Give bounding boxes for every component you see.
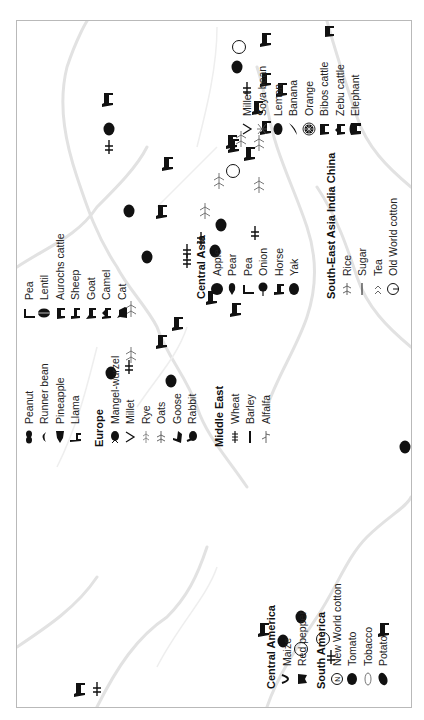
wheat-icon bbox=[228, 427, 242, 447]
svg-text:N: N bbox=[334, 677, 341, 682]
legend-label: Wheat bbox=[229, 394, 241, 424]
ass-icon bbox=[257, 30, 273, 48]
legend-item: Onion bbox=[256, 235, 272, 299]
map-frame: Central America Maize Red pepper South A… bbox=[16, 20, 412, 708]
legend-item: Pea bbox=[240, 235, 256, 299]
legend-item: Goose bbox=[169, 356, 185, 447]
old-world-cotton-icon bbox=[225, 162, 241, 180]
legend-label: Aurochs cattle bbox=[54, 233, 66, 300]
elephant-icon bbox=[348, 119, 362, 139]
old-world-cotton-icon bbox=[386, 279, 400, 299]
tomato-icon bbox=[345, 669, 359, 689]
goose-icon bbox=[170, 427, 184, 447]
legend-label: Rice bbox=[341, 255, 353, 276]
legend-item: Potato bbox=[376, 583, 392, 689]
legend-item: Old World cotton bbox=[386, 153, 402, 299]
lemon-icon bbox=[271, 119, 285, 139]
legend-label: Soya bean bbox=[256, 66, 268, 116]
legend-label: Zebu cattle bbox=[334, 64, 346, 116]
legend-label: Goose bbox=[171, 393, 183, 424]
legend-label: Barley bbox=[244, 394, 256, 424]
legend-item: Pear bbox=[225, 235, 241, 299]
legend-item: Barley bbox=[243, 386, 259, 447]
legend-label: Tomato bbox=[346, 632, 358, 666]
mangel-wurzel-icon bbox=[108, 427, 122, 447]
legend-item: Pineapple bbox=[52, 363, 68, 447]
soya-bean-icon bbox=[255, 119, 269, 139]
legend-south-america: South America N New World cotton Tomato … bbox=[313, 583, 391, 689]
legend-label: Peanut bbox=[23, 391, 35, 424]
water-buffalo-icon bbox=[322, 21, 336, 41]
legend-item: Water buffalo bbox=[321, 20, 337, 41]
legend-title: South-East Asia India China bbox=[323, 153, 339, 299]
legend-south-east-asia: South-East Asia India China Rice Sugar T… bbox=[323, 153, 401, 299]
legend-item: Wheat bbox=[227, 386, 243, 447]
legend-item: Rabbit bbox=[185, 356, 201, 447]
legend-item: Soya bean bbox=[255, 62, 271, 139]
legend-title: South America bbox=[313, 583, 329, 689]
legend-item: Alfalfa bbox=[258, 386, 274, 447]
orange-icon bbox=[302, 119, 316, 139]
legend-item: Peanut bbox=[21, 363, 37, 447]
legend-label: Alfalfa bbox=[260, 395, 272, 424]
legend-item: Tobacco bbox=[360, 583, 376, 689]
legend-item: Sheep bbox=[68, 233, 84, 323]
legend-label: Yak bbox=[288, 259, 300, 276]
legend-label: Red pepper bbox=[296, 611, 308, 666]
peanut-icon bbox=[22, 427, 36, 447]
maize-icon bbox=[89, 680, 105, 698]
legend-item: Lentil bbox=[37, 233, 53, 323]
pea-icon bbox=[101, 138, 117, 156]
alfalfa-icon bbox=[259, 427, 273, 447]
sugar-icon bbox=[355, 279, 369, 299]
aurochs-cattle-icon bbox=[53, 303, 67, 323]
legend-europe: Europe Mangel-wurzel Millet Rye Oats Goo… bbox=[91, 356, 200, 447]
legend-label: Lentil bbox=[38, 275, 50, 300]
legend-item: Zebu cattle bbox=[332, 62, 348, 139]
legend-asia-extra-2: Water buffalo bbox=[321, 20, 337, 41]
soya-bean-icon bbox=[251, 176, 267, 194]
pineapple-icon bbox=[397, 438, 412, 456]
figure-stage: Central America Maize Red pepper South A… bbox=[0, 0, 424, 720]
pear-icon bbox=[121, 202, 137, 220]
aurochs-cattle-icon bbox=[169, 314, 185, 332]
legend-middle-east-extra: Pea Lentil Aurochs cattle Sheep Goat Cam… bbox=[21, 233, 130, 323]
cat-icon bbox=[115, 303, 129, 323]
legend-label: Oats bbox=[155, 402, 167, 424]
legend-label: Pea bbox=[23, 281, 35, 300]
rice-icon bbox=[340, 279, 354, 299]
legend-label: Camel bbox=[100, 270, 112, 300]
legend-label: Potato bbox=[377, 636, 389, 666]
orange-icon bbox=[231, 38, 247, 56]
onion-icon bbox=[256, 279, 270, 299]
horse-icon bbox=[99, 90, 115, 108]
barley-icon bbox=[243, 427, 257, 447]
legend-label: Orange bbox=[303, 81, 315, 116]
legend-label: Tobacco bbox=[362, 627, 374, 666]
tea-icon bbox=[371, 279, 385, 299]
legend-asia-extra-1: Millet Soya bean Lemon Banana Orange Bib… bbox=[239, 62, 363, 139]
legend-label: Runner bean bbox=[38, 363, 50, 424]
oats-icon bbox=[154, 427, 168, 447]
llama-icon bbox=[68, 427, 82, 447]
legend-item: Yak bbox=[287, 235, 303, 299]
legend-item: Horse bbox=[271, 235, 287, 299]
alfalfa-icon bbox=[197, 202, 213, 220]
maize-icon bbox=[280, 669, 294, 689]
legend-item: Lemon bbox=[270, 62, 286, 139]
tobacco-icon bbox=[361, 669, 375, 689]
millet-icon bbox=[123, 427, 137, 447]
goose-icon bbox=[153, 332, 169, 350]
legend-americas-extra: Peanut Runner bean Pineapple Llama bbox=[21, 363, 83, 447]
legend-label: Bibos cattle bbox=[318, 62, 330, 116]
legend-item: Tea bbox=[370, 153, 386, 299]
legend-label: Pea bbox=[242, 257, 254, 276]
legend-label: Horse bbox=[273, 248, 285, 276]
legend-label: Sheep bbox=[69, 270, 81, 300]
legend-item: Aurochs cattle bbox=[52, 233, 68, 323]
onion-icon bbox=[101, 120, 117, 138]
apple-icon bbox=[139, 248, 155, 266]
legend-item: Red pepper bbox=[295, 605, 311, 689]
legend-item: Oats bbox=[154, 356, 170, 447]
legend-item: Mangel-wurzel bbox=[107, 356, 123, 447]
